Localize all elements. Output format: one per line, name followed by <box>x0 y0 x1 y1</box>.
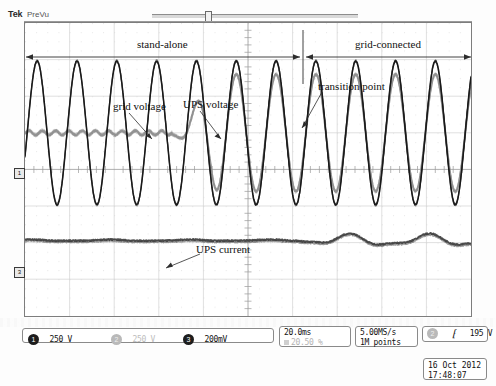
channel-1-readout[interactable]: 1 250 V <box>28 330 72 348</box>
trigger-readout[interactable]: 2 ⁅ 195 V <box>422 326 488 342</box>
label-stand-alone: stand-alone <box>137 38 188 50</box>
trigger-level-value: 195 V <box>470 329 493 338</box>
rising-edge-icon: ⁅ <box>452 328 456 339</box>
channel-2-readout[interactable]: 2 250 V <box>111 330 155 348</box>
scan-artifact-band <box>0 318 496 327</box>
label-grid-connected: grid-connected <box>355 38 421 50</box>
channel-1-ground-marker[interactable]: 1 <box>14 168 25 179</box>
horizontal-position-bar[interactable]: u <box>152 14 358 20</box>
label-ups-voltage: UPS voltage <box>183 98 238 110</box>
waveform-traces <box>25 23 471 316</box>
horizontal-position-value: 20.50 % <box>291 338 323 347</box>
channel-1-scale: 250 V <box>49 335 72 344</box>
acquisition-readout[interactable]: 5.00MS/s 1M points <box>355 326 418 347</box>
waveform-screen[interactable] <box>24 22 472 317</box>
horizontal-readout[interactable]: 20.0ms 20.50 % <box>279 326 351 347</box>
trace-ups-voltage <box>25 73 471 193</box>
previu-indicator: PreVu <box>27 10 49 19</box>
channel-2-badge: 2 <box>111 334 122 345</box>
timestamp-readout: 16 Oct 2012 17:48:07 <box>423 358 487 380</box>
position-icon <box>284 340 289 345</box>
timebase-value: 20.0ms <box>284 328 323 338</box>
channel-3-readout[interactable]: 3 200mV <box>183 330 227 348</box>
record-length-value: 1M points <box>360 338 401 348</box>
channel-readout-bar: 1 250 V 2 250 V 3 200mV <box>22 328 274 343</box>
trigger-source-badge: 2 <box>427 328 438 339</box>
channel-2-scale: 250 V <box>132 335 155 344</box>
label-transition-point: transition point <box>318 80 385 92</box>
position-bar-track <box>152 15 358 18</box>
capture-time: 17:48:07 <box>428 371 481 381</box>
channel-3-ground-marker[interactable]: 3 <box>14 267 25 278</box>
label-ups-current: UPS current <box>196 243 250 255</box>
sample-rate-value: 5.00MS/s <box>360 328 401 338</box>
capture-date: 16 Oct 2012 <box>428 361 481 371</box>
oscilloscope-screenshot: Tek PreVu u <box>0 0 496 386</box>
label-grid-voltage: grid voltage <box>113 100 166 112</box>
channel-1-badge: 1 <box>28 334 39 345</box>
channel-3-badge: 3 <box>183 334 194 345</box>
tek-logo: Tek <box>8 9 22 19</box>
channel-3-scale: 200mV <box>204 335 227 344</box>
